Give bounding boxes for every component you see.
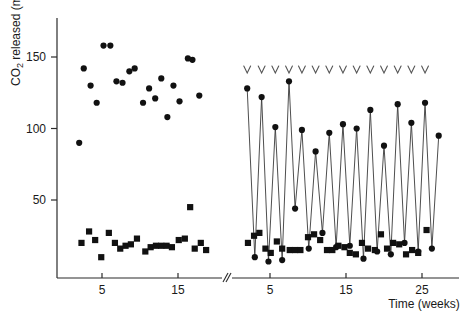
control-co2-circles-point <box>132 65 138 71</box>
treated-co2-squares-point <box>378 231 384 237</box>
addition-arrow-icon <box>272 66 279 73</box>
addition-arrow-icon <box>286 66 293 73</box>
x-axis-title: Time (weeks) <box>388 297 460 311</box>
treated-co2-squares-point <box>384 246 390 252</box>
x-tick-label-left-panel-15: 15 <box>171 283 185 297</box>
treated-co2-circles-zigzag-point <box>429 246 435 252</box>
control-co2-squares-point <box>164 243 170 249</box>
x-tick-label-right-panel-15: 15 <box>339 283 353 297</box>
treated-co2-squares-point <box>324 247 330 253</box>
treated-co2-squares-point <box>353 251 359 257</box>
treated-co2-squares-point <box>415 250 421 256</box>
treated-co2-circles-zigzag-point <box>279 257 285 263</box>
control-co2-circles-point <box>88 83 94 89</box>
treated-co2-squares-point <box>423 227 429 233</box>
control-co2-circles-point <box>196 93 202 99</box>
treated-co2-circles-zigzag-point <box>306 246 312 252</box>
treated-co2-circles-zigzag-point <box>259 94 265 100</box>
treated-co2-squares-point <box>287 247 293 253</box>
control-co2-circles-point <box>158 75 164 81</box>
addition-arrow-icon <box>381 66 388 73</box>
treated-co2-circles-zigzag-point <box>313 148 319 154</box>
treated-co2-squares-point <box>317 237 323 243</box>
control-co2-squares-point <box>98 254 104 260</box>
treated-co2-circles-zigzag-point <box>244 85 250 91</box>
y-axis-title: CO2 released (mg) <box>9 0 25 86</box>
treated-co2-circles-zigzag-point <box>326 130 332 136</box>
treated-co2-circles-zigzag-point <box>381 143 387 149</box>
addition-arrow-icon <box>353 66 360 73</box>
treated-co2-circles-zigzag-point <box>360 256 366 262</box>
addition-arrow-icon <box>422 66 429 73</box>
addition-arrow-icon <box>394 66 401 73</box>
treated-co2-circles-zigzag-point <box>395 101 401 107</box>
treated-co2-squares-point <box>305 234 311 240</box>
control-co2-circles-point <box>76 140 82 146</box>
control-co2-squares-point <box>128 241 134 247</box>
treated-co2-squares-point <box>311 231 317 237</box>
y-tick-label-100: 100 <box>26 122 46 136</box>
control-co2-circles-point <box>94 100 100 106</box>
co2-released-chart: 50100150CO2 released (mg)51551525Time (w… <box>0 0 467 312</box>
control-co2-circles-point <box>126 68 132 74</box>
treated-co2-circles-zigzag-point <box>252 254 258 260</box>
control-co2-circles-point <box>81 65 87 71</box>
control-co2-squares-point <box>192 246 198 252</box>
control-co2-circles-point <box>176 98 182 104</box>
treated-co2-squares-point <box>403 251 409 257</box>
control-co2-squares-point <box>92 237 98 243</box>
treated-co2-circles-zigzag-point <box>299 127 305 133</box>
addition-arrow-icon <box>340 66 347 73</box>
x-tick-label-left-panel-5: 5 <box>99 283 106 297</box>
treated-co2-squares-point <box>372 247 378 253</box>
addition-arrow-icon <box>244 66 251 73</box>
treated-co2-squares-point <box>279 246 285 252</box>
treated-co2-circles-zigzag-point <box>347 243 353 249</box>
treated-co2-squares-point <box>262 246 268 252</box>
control-co2-circles-point <box>140 100 146 106</box>
x-tick-label-right-panel-5: 5 <box>267 283 274 297</box>
treated-co2-squares-point <box>359 240 365 246</box>
treated-co2-circles-zigzag-point <box>422 100 428 106</box>
svg-text:CO2 released (mg): CO2 released (mg) <box>9 0 25 86</box>
treated-co2-circles-zigzag-point <box>436 133 442 139</box>
control-co2-circles-point <box>164 114 170 120</box>
control-co2-squares-point <box>117 246 123 252</box>
treated-co2-squares-point <box>274 238 280 244</box>
treated-co2-squares-point <box>341 244 347 250</box>
treated-co2-circles-zigzag-point <box>388 251 394 257</box>
treated-co2-circles-zigzag-point <box>265 258 271 264</box>
control-co2-squares-point <box>158 243 164 249</box>
treated-co2-squares-point <box>347 250 353 256</box>
treated-co2-squares-point <box>268 250 274 256</box>
treated-co2-squares-point <box>365 246 371 252</box>
control-co2-circles-point <box>113 78 119 84</box>
treated-co2-circles-zigzag-point <box>367 107 373 113</box>
control-co2-circles-point <box>107 42 113 48</box>
control-co2-squares-point <box>78 240 84 246</box>
control-co2-squares-point <box>187 204 193 210</box>
treated-co2-circles-zigzag-point <box>340 121 346 127</box>
treated-co2-circles-zigzag-point <box>319 230 325 236</box>
y-tick-label-150: 150 <box>26 50 46 64</box>
control-co2-squares-point <box>182 236 188 242</box>
control-co2-squares-point <box>176 237 182 243</box>
control-co2-squares-point <box>112 240 118 246</box>
treated-co2-squares-point <box>251 233 257 239</box>
addition-arrow-icon <box>258 66 265 73</box>
addition-arrow-icon <box>312 66 319 73</box>
control-co2-squares-point <box>106 230 112 236</box>
treated-co2-squares-point <box>329 247 335 253</box>
x-tick-label-right-panel-25: 25 <box>415 283 429 297</box>
treated-co2-circles-zigzag-line <box>247 81 439 261</box>
chart-canvas: 50100150CO2 released (mg)51551525Time (w… <box>0 0 467 312</box>
control-co2-squares-point <box>148 244 154 250</box>
control-co2-squares-point <box>153 243 159 249</box>
control-co2-circles-point <box>146 85 152 91</box>
control-co2-circles-point <box>100 42 106 48</box>
treated-co2-circles-zigzag-point <box>354 125 360 131</box>
control-co2-squares-point <box>134 236 140 242</box>
control-co2-circles-point <box>119 80 125 86</box>
treated-co2-circles-zigzag-point <box>292 205 298 211</box>
control-co2-squares-point <box>142 248 148 254</box>
